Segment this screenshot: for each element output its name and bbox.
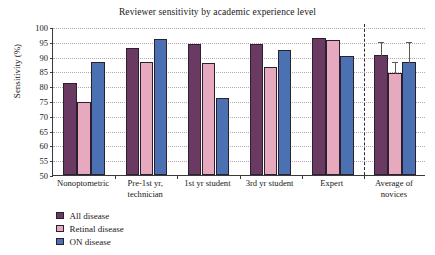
y-tick-label: 70 [40, 112, 49, 122]
legend-item[interactable]: Retinal disease [56, 222, 124, 235]
y-tick-label: 55 [40, 156, 49, 166]
legend-swatch [56, 212, 64, 220]
x-axis-labels: NonoptometricPre-1st yr, technician1st y… [52, 178, 425, 204]
plot-area: 50556065707580859095100 [52, 28, 425, 176]
legend-label: ON disease [70, 237, 111, 247]
legend-label: Retinal disease [70, 224, 124, 234]
legend-label: All disease [70, 211, 110, 221]
y-tick-label: 80 [40, 82, 49, 92]
legend-swatch [56, 238, 64, 246]
y-tick-label: 60 [40, 141, 49, 151]
y-tick-label: 75 [40, 97, 49, 107]
y-tick-label: 95 [40, 38, 49, 48]
y-tick-label: 65 [40, 126, 49, 136]
x-axis-label: Average of novices [353, 178, 435, 199]
legend-item[interactable]: All disease [56, 209, 124, 222]
y-tick-label: 85 [40, 67, 49, 77]
legend-swatch [56, 225, 64, 233]
y-tick-mark [50, 176, 54, 177]
y-axis-label: Sensitivity (%) [12, 16, 22, 126]
divider-layer [53, 28, 425, 175]
chart-figure: Reviewer sensitivity by academic experie… [0, 0, 435, 255]
legend-item[interactable]: ON disease [56, 235, 124, 248]
y-tick-label: 90 [40, 52, 49, 62]
chart-legend: All diseaseRetinal diseaseON disease [56, 209, 124, 248]
y-tick-label: 100 [35, 23, 48, 33]
novice-divider [364, 24, 365, 175]
chart-title: Reviewer sensitivity by academic experie… [0, 7, 435, 17]
